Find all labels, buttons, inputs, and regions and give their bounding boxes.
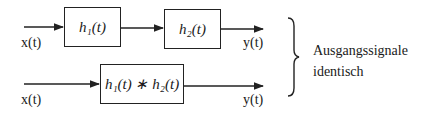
annotation-text: Ausgangssignale identisch: [313, 40, 408, 82]
top-input-label: x(t): [21, 35, 41, 51]
curly-brace: [288, 18, 299, 96]
top-output-label: y(t): [243, 35, 263, 51]
block-h2-label: h₂(t): [179, 21, 206, 38]
annotation-line-1: Ausgangssignale: [313, 40, 408, 61]
block-h1-conv-h2-label: h₁(t) ∗ h₂(t): [105, 75, 179, 93]
block-h1: h₁(t): [64, 7, 121, 47]
bottom-input-label: x(t): [21, 92, 41, 108]
block-h2: h₂(t): [164, 9, 221, 49]
block-h1-label: h₁(t): [79, 19, 106, 36]
bottom-output-label: y(t): [243, 92, 263, 108]
annotation-line-2: identisch: [313, 61, 408, 82]
block-h1-conv-h2: h₁(t) ∗ h₂(t): [100, 64, 184, 104]
